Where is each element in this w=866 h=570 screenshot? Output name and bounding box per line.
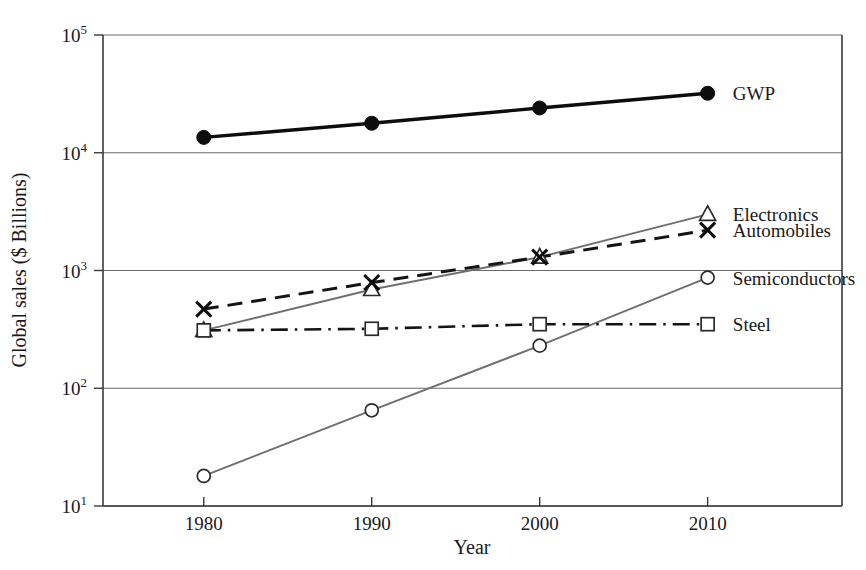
data-point-gwp	[701, 86, 715, 100]
data-point-semiconductors	[701, 271, 714, 284]
line-chart: 101102103104105 1980199020002010 GWPElec…	[0, 0, 866, 570]
y-tick-label: 105	[62, 22, 88, 46]
series-lines	[204, 93, 708, 476]
data-point-electronics	[700, 206, 716, 221]
data-point-gwp	[533, 101, 547, 115]
series-line-semiconductors	[204, 278, 708, 476]
data-point-semiconductors	[365, 404, 378, 417]
series-line-steel	[204, 324, 708, 330]
y-tick-labels: 101102103104105	[62, 22, 88, 517]
y-tick-label: 103	[62, 258, 88, 282]
x-tick-label: 2000	[521, 513, 559, 534]
y-tick-label: 104	[62, 140, 88, 164]
axis-ticks	[204, 497, 708, 506]
y-tick-label: 101	[62, 493, 88, 517]
series-markers	[196, 86, 716, 482]
x-tick-labels: 1980199020002010	[185, 513, 727, 534]
data-point-steel	[533, 318, 546, 331]
x-tick-label: 1980	[185, 513, 223, 534]
data-point-gwp	[365, 116, 379, 130]
series-labels: GWPElectronicsAutomobilesSemiconductorsS…	[733, 83, 855, 335]
x-tick-label: 1990	[353, 513, 391, 534]
x-tick-label: 2010	[689, 513, 727, 534]
series-line-electronics	[204, 214, 708, 330]
series-label-steel: Steel	[733, 314, 771, 335]
series-label-gwp: GWP	[733, 83, 775, 104]
series-line-automobiles	[204, 230, 708, 309]
chart-figure: 101102103104105 1980199020002010 GWPElec…	[0, 0, 866, 570]
series-label-automobiles: Automobiles	[733, 220, 831, 241]
data-point-steel	[365, 322, 378, 335]
y-axis-title: Global sales ($ Billions)	[8, 173, 31, 368]
data-point-steel	[197, 324, 210, 337]
data-point-semiconductors	[197, 469, 210, 482]
x-axis-title: Year	[454, 536, 491, 558]
data-point-steel	[701, 318, 714, 331]
data-point-gwp	[197, 130, 211, 144]
series-line-gwp	[204, 93, 708, 137]
y-tick-label: 102	[62, 375, 88, 399]
data-point-semiconductors	[533, 339, 546, 352]
series-label-semiconductors: Semiconductors	[733, 268, 855, 289]
